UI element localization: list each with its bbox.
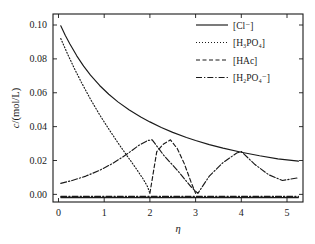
x-tick-label: 2	[147, 207, 152, 218]
y-tick-label: 0.06	[30, 87, 48, 98]
x-tick-label: 5	[285, 207, 290, 218]
chart-figure: 0.000.020.040.060.080.10 012345 c/(mol/L…	[0, 0, 315, 244]
x-tick-label: 3	[193, 207, 198, 218]
data-curves	[61, 26, 299, 198]
legend-label: [H₂PO₄⁻]	[233, 73, 270, 83]
series-curve	[61, 39, 150, 194]
chart-legend: [Cl⁻][H₃PO₄][HAc][H₂PO₄⁻]	[196, 21, 270, 84]
y-tick-label: 0.04	[30, 121, 48, 132]
legend-label: [HAc]	[233, 56, 257, 66]
y-axis-title: c/(mol/L)	[10, 87, 22, 128]
y-tick-label: 0.08	[30, 53, 48, 64]
x-tick-label: 4	[239, 207, 244, 218]
x-axis-title: η	[175, 223, 180, 234]
line-chart-svg: 0.000.020.040.060.080.10 012345 c/(mol/L…	[0, 0, 315, 244]
y-tick-label: 0.02	[30, 155, 48, 166]
x-tick-label: 0	[56, 207, 61, 218]
legend-label: [H₃PO₄]	[233, 38, 265, 48]
legend-label: [Cl⁻]	[233, 21, 253, 31]
x-tick-label: 1	[102, 207, 107, 218]
y-tick-label: 0.00	[30, 189, 48, 200]
series-curve	[61, 140, 299, 194]
y-tick-label: 0.10	[30, 19, 48, 30]
svg-text:c/(mol/L): c/(mol/L)	[10, 87, 22, 128]
series-curve	[150, 140, 196, 194]
